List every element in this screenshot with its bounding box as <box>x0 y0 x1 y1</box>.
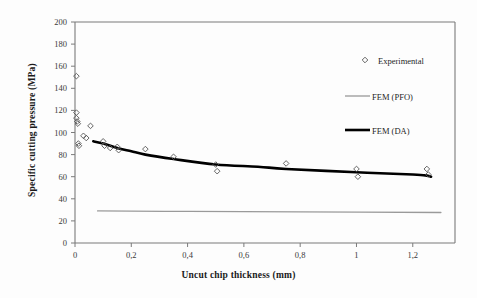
y-tick-label: 200 <box>41 17 67 27</box>
x-tick-label: 0,2 <box>116 250 146 260</box>
x-axis-ticks <box>75 243 413 247</box>
x-tick-label: 0,4 <box>173 250 203 260</box>
legend-label-experimental: Experimental <box>378 56 424 66</box>
legend-label-fem-da: FEM (DA) <box>372 126 410 136</box>
legend-glyphs <box>345 57 370 130</box>
legend-label-fem-pfo: FEM (PFO) <box>372 92 413 102</box>
series-fem-pfo <box>98 211 441 213</box>
x-tick-label: 1,2 <box>398 250 428 260</box>
x-tick-label: 0,8 <box>285 250 315 260</box>
x-tick-label: 0,6 <box>229 250 259 260</box>
y-tick-label: 140 <box>41 83 67 93</box>
y-tick-label: 80 <box>41 150 67 160</box>
y-tick-label: 180 <box>41 39 67 49</box>
y-tick-label: 20 <box>41 216 67 226</box>
x-tick-label: 1 <box>341 250 371 260</box>
series-fem-da <box>93 141 431 176</box>
x-tick-label: 0 <box>60 250 90 260</box>
y-axis-ticks <box>71 22 75 243</box>
chart-figure: Uncut chip thickness (mm) Specific cutti… <box>0 0 477 298</box>
y-tick-label: 100 <box>41 128 67 138</box>
y-tick-label: 60 <box>41 172 67 182</box>
y-tick-label: 120 <box>41 105 67 115</box>
x-axis-title: Uncut chip thickness (mm) <box>0 270 477 280</box>
y-tick-label: 0 <box>41 238 67 248</box>
y-tick-label: 40 <box>41 194 67 204</box>
y-tick-label: 160 <box>41 61 67 71</box>
y-axis-title: Specific cutting pressure (MPa) <box>27 20 37 240</box>
